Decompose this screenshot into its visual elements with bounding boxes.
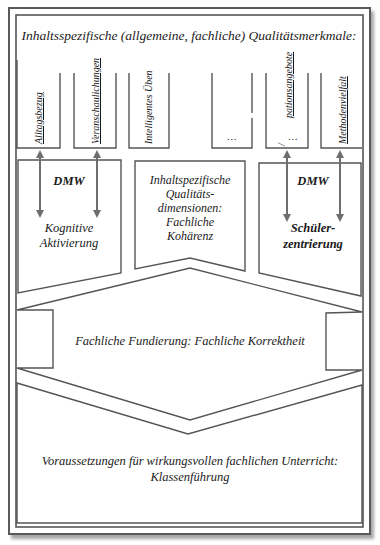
foundation-label: Fachliche Fundierung: Fachliche Korrekth…	[74, 334, 305, 348]
dimension-center-line4: Fachliche	[165, 215, 215, 229]
header-title: Inhaltsspezifische (allgemeine, fachlich…	[20, 28, 356, 43]
column-label-veranschaulichungen: Veranschaulichungen	[90, 58, 101, 144]
dimension-center-line1: Inhaltspezifische	[149, 173, 231, 187]
dimension-right-line1: Schüler-	[291, 221, 335, 235]
quality-model-diagram: Inhaltsspezifische (allgemeine, fachlich…	[0, 0, 380, 545]
dimension-center-line2: Qualitäts-	[166, 187, 215, 201]
dmw-tag-right: DMW	[296, 174, 329, 188]
prerequisites-line2: Klassenführung	[149, 470, 229, 484]
column-label-alltagsbezug: Alltagsbezug	[33, 92, 44, 145]
column-ellipsis: …	[228, 131, 237, 142]
column-label-partizipation: pationsangebote	[283, 51, 294, 119]
inner-frame	[16, 15, 363, 527]
dimension-left-line2: Aktivierung	[39, 236, 98, 250]
prerequisites-line1: Voraussetzungen für wirkungsvollen fachl…	[42, 454, 339, 468]
prerequisites-box	[17, 383, 362, 523]
column-ellipsis-partizipation: …	[289, 131, 298, 142]
column-label-partizipation-fragment: /	[276, 142, 287, 147]
dimension-center-line3: dimensionen:	[158, 201, 223, 215]
column-label-methodenvielfalt: Methodenvielfalt	[337, 76, 348, 145]
column-label-intelligentes-ueben: Intelligentes Üben	[143, 70, 154, 145]
dmw-tag-left: DMW	[52, 174, 85, 188]
dimension-left-line1: Kognitive	[44, 221, 94, 235]
dimension-center-line5: Kohärenz	[166, 229, 214, 243]
dimension-right-line2: zentrierung	[282, 237, 343, 251]
